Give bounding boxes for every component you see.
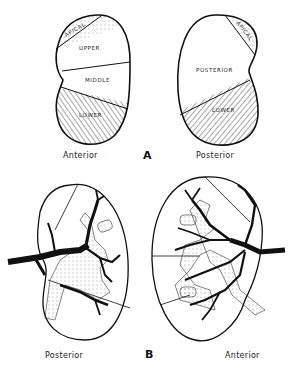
svg-text:LOWER: LOWER bbox=[212, 107, 235, 113]
svg-text:MIDDLE: MIDDLE bbox=[85, 77, 110, 83]
caption-b-anterior: Anterior bbox=[225, 351, 260, 360]
kidney-segments-figure: APICAL UPPER MIDDLE LOWER APICAL POSTERI… bbox=[0, 0, 305, 370]
caption-b-posterior: Posterior bbox=[45, 351, 83, 360]
kidney-posterior-vessels bbox=[8, 184, 130, 340]
svg-text:POSTERIOR: POSTERIOR bbox=[196, 67, 233, 73]
panel-letter-b: B bbox=[145, 348, 153, 361]
caption-a-posterior: Posterior bbox=[196, 151, 234, 160]
kidney-anterior-segments: APICAL UPPER MIDDLE LOWER bbox=[50, 10, 150, 160]
svg-text:UPPER: UPPER bbox=[79, 45, 100, 51]
caption-a-anterior: Anterior bbox=[63, 151, 98, 160]
svg-text:LOWER: LOWER bbox=[79, 112, 102, 118]
kidney-posterior-segments: APICAL POSTERIOR LOWER bbox=[170, 10, 265, 160]
panel-letter-a: A bbox=[143, 149, 152, 162]
kidney-anterior-vessels bbox=[152, 177, 285, 341]
